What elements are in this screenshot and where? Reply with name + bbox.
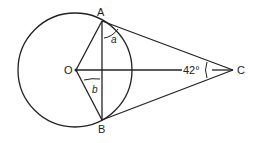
tangent-AC <box>102 21 233 70</box>
tangent-BC <box>102 70 233 120</box>
label-angle-a: a <box>111 34 117 45</box>
label-angle-C: 42° <box>183 64 200 76</box>
angle-42-arc <box>206 62 208 78</box>
label-angle-b: b <box>92 84 98 95</box>
label-A: A <box>97 6 105 18</box>
radius-OA <box>76 21 102 70</box>
label-O: O <box>64 64 73 76</box>
label-C: C <box>237 64 245 76</box>
angle-b-arc <box>84 79 100 80</box>
center-dot <box>75 69 78 72</box>
label-B: B <box>98 123 105 135</box>
radius-OB <box>76 70 102 120</box>
geometry-diagram: A B C O a b 42° <box>0 0 255 143</box>
